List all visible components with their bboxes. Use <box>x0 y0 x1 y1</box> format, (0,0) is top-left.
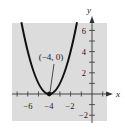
x-tick-label-neg6: −6 <box>23 101 32 111</box>
vertex-label: (−4, 0) <box>39 52 64 62</box>
graph-svg: −6 −4 −2 6 4 2 −2 y x (−4, 0) <box>0 0 125 130</box>
vertex-point <box>47 92 52 97</box>
y-tick-label-6: 6 <box>82 26 86 36</box>
x-tick-label-neg2: −2 <box>65 101 74 111</box>
y-tick-label-neg2: −2 <box>79 110 88 120</box>
x-tick-label-neg4: −4 <box>44 101 54 111</box>
y-axis-arrow-icon <box>90 16 95 23</box>
parabola-graph: −6 −4 −2 6 4 2 −2 y x (−4, 0) <box>0 0 125 130</box>
x-axis-arrow-icon <box>106 92 113 97</box>
y-axis-label: y <box>86 5 91 15</box>
x-axis-label: x <box>115 89 120 99</box>
y-tick-label-2: 2 <box>82 68 86 78</box>
